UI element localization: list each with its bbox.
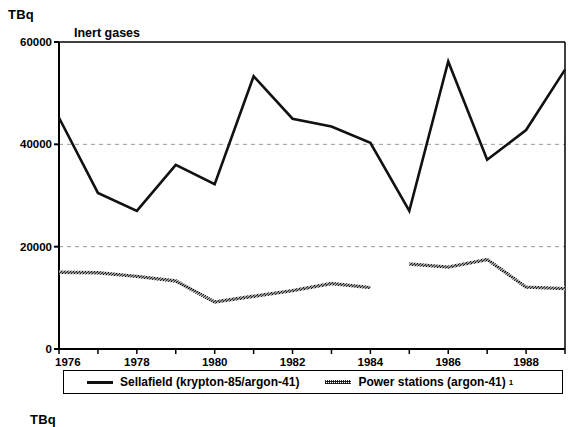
x-axis-tick-label: 1982 (280, 356, 306, 368)
legend-item-sellafield: Sellafield (krypton-85/argon-41) (87, 375, 299, 389)
x-axis-tick-label: 1988 (513, 356, 539, 368)
y-axis-unit-label-bottom: TBq (30, 412, 56, 427)
x-axis-tick-label: 1978 (124, 356, 150, 368)
x-axis-tick-label: 1976 (55, 356, 81, 368)
series-line-sellafield (59, 61, 565, 210)
y-axis-tick-label: 40000 (20, 138, 52, 150)
legend-label-sellafield: Sellafield (krypton-85/argon-41) (120, 375, 299, 389)
legend-swatch-solid-line-icon (87, 381, 113, 384)
legend-swatch-hatched-line-icon (325, 380, 351, 384)
chart-legend: Sellafield (krypton-85/argon-41) Power s… (63, 370, 563, 394)
legend-label-power-stations: Power stations (argon-41) (358, 375, 505, 389)
series-line-power-stations (59, 259, 565, 301)
y-axis-tick-label: 60000 (20, 36, 52, 48)
y-axis-tick-label: 20000 (20, 241, 52, 253)
x-axis-tick-label: 1986 (435, 356, 461, 368)
legend-footnote-marker: 1 (509, 378, 513, 387)
y-axis-tick-label: 0 (46, 343, 52, 355)
x-axis-tick-label: 1984 (358, 356, 384, 368)
legend-item-power-stations: Power stations (argon-41) 1 (325, 375, 513, 389)
x-axis-tick-label: 1980 (202, 356, 228, 368)
axes-group (54, 42, 565, 354)
